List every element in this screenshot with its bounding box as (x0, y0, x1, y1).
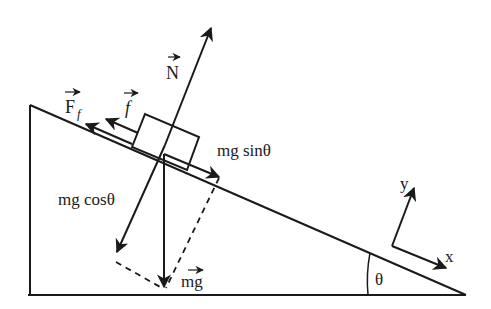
axis-y-arrow (392, 188, 414, 246)
label-axis-y: y (400, 174, 409, 193)
normal-force-arrow (165, 28, 211, 145)
label-angle: θ (375, 270, 383, 289)
label-mg-cos: mg cosθ (58, 190, 115, 209)
diagram-canvas: N F f f mg sinθ mg cosθ mg θ y x (0, 0, 491, 309)
friction-arrow (106, 119, 138, 133)
angle-arc (367, 253, 370, 295)
label-friction-total: F f (65, 92, 83, 121)
svg-text:N: N (166, 63, 179, 83)
svg-text:f: f (125, 98, 133, 118)
svg-text:f: f (77, 106, 83, 121)
axis-x-arrow (392, 246, 446, 268)
label-normal-force: N (166, 57, 180, 83)
incline-diagram: N F f f mg sinθ mg cosθ mg θ y x (0, 0, 491, 309)
label-axis-x: x (445, 247, 454, 266)
svg-text:F: F (65, 97, 75, 117)
mg-cos-arrow (117, 145, 165, 252)
dashed-line-cos-to-mg (116, 262, 162, 288)
label-weight: mg (181, 270, 203, 291)
label-mg-sin: mg sinθ (217, 141, 271, 160)
label-friction: f (124, 93, 138, 118)
svg-text:mg: mg (181, 272, 203, 291)
